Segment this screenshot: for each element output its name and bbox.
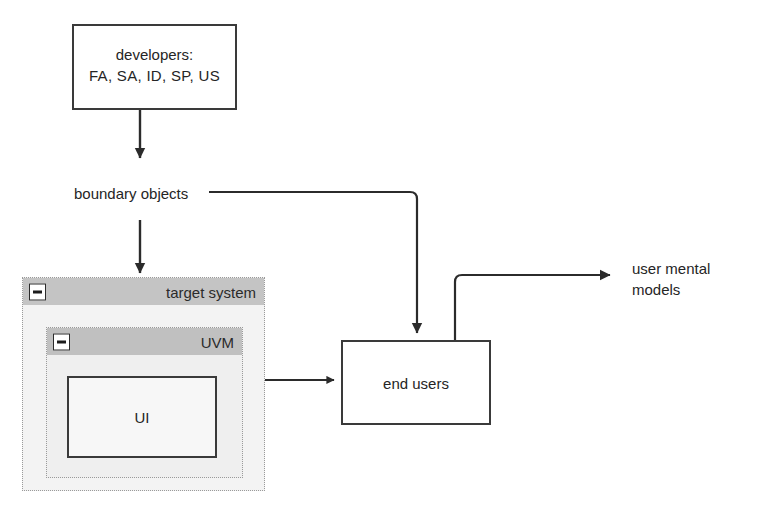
- minus-icon: [33, 290, 42, 293]
- ui-box-label: UI: [69, 409, 215, 426]
- ui-box: UI: [67, 376, 217, 458]
- developers-box-line1: developers:: [116, 46, 194, 63]
- minus-icon: [57, 340, 66, 343]
- uvm-title: UVM: [201, 333, 234, 350]
- uvm-titlebar: UVM: [47, 328, 242, 355]
- uvm-collapse-button[interactable]: [53, 333, 70, 350]
- diagram-canvas: developers: FA, SA, ID, SP, US boundary …: [0, 0, 760, 529]
- user-mental-models-line1: user mental: [632, 260, 710, 277]
- target-system-titlebar: target system: [23, 278, 264, 305]
- end-users-box-label: end users: [343, 374, 489, 391]
- user-mental-models-label: user mental models: [632, 258, 710, 300]
- boundary-objects-label: boundary objects: [74, 185, 188, 202]
- user-mental-models-line2: models: [632, 279, 710, 300]
- target-system-collapse-button[interactable]: [29, 283, 46, 300]
- target-system-title: target system: [166, 283, 256, 300]
- developers-box-text: developers: FA, SA, ID, SP, US: [72, 44, 237, 86]
- developers-box-line2: FA, SA, ID, SP, US: [72, 65, 237, 86]
- end-users-box: end users: [341, 340, 491, 425]
